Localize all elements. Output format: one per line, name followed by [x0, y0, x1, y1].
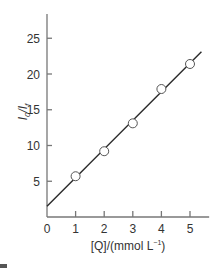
- y-tick-label: 10: [27, 139, 41, 153]
- y-axis-title: I0/If: [16, 103, 32, 120]
- x-tick-label: 1: [72, 222, 79, 236]
- data-point-marker: [71, 172, 80, 181]
- data-point-marker: [128, 119, 137, 128]
- data-point-marker: [186, 59, 195, 68]
- x-tick-label: 2: [101, 222, 108, 236]
- corner-mark: [0, 264, 7, 268]
- x-axis-title: [Q]/(mmol L−1): [91, 239, 166, 253]
- data-point-marker: [100, 147, 109, 156]
- x-tick-label: 0: [44, 222, 51, 236]
- x-axis-ticks: 012345: [44, 211, 194, 236]
- regression-line: [47, 52, 201, 206]
- x-tick-label: 3: [129, 222, 136, 236]
- chart-canvas: 510152025 012345 [Q]/(mmol L−1) I0/If: [0, 0, 219, 268]
- x-tick-label: 5: [187, 222, 194, 236]
- y-tick-label: 20: [27, 68, 41, 82]
- data-point-marker: [157, 85, 166, 94]
- y-tick-label: 25: [27, 32, 41, 46]
- y-axis-ticks: 510152025: [27, 32, 52, 189]
- y-tick-label: 5: [33, 175, 40, 189]
- x-tick-label: 4: [158, 222, 165, 236]
